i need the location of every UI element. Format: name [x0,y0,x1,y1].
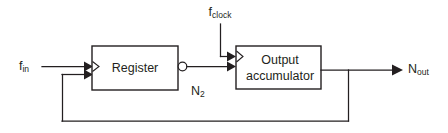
label-n2-sub: 2 [200,89,205,99]
wire-register-to-accumulator [178,62,236,72]
arrowhead-nout [392,65,403,76]
arrowhead-accumulator-data-input [227,62,236,72]
label-n-out-base: N [408,62,417,76]
label-f-clock: fclock [209,5,233,20]
output-accumulator-label-line2: accumulator [246,69,314,83]
label-f-clock-sub: clock [212,10,232,20]
label-n2: N2 [191,84,205,99]
wire-feedback-to-register [62,70,93,80]
output-accumulator-label-line1: Output [261,53,299,67]
wire-fclock-to-accumulator [221,24,237,62]
block-register: Register [92,46,178,90]
register-output-inversion-bubble [178,62,187,71]
label-n-out-sub: out [417,67,429,77]
wire-accumulator-to-nout [321,65,403,76]
arrowhead-accumulator-clock-input [227,52,236,62]
label-n-out: Nout [408,62,429,77]
diagram-canvas: Register Output accumulator fin fc [0,0,448,133]
wire-fin-to-register [42,62,93,72]
register-label: Register [112,61,159,75]
label-f-in: fin [19,59,29,74]
block-diagram: Register Output accumulator fin fc [0,0,448,133]
label-n2-base: N [191,84,200,98]
block-output-accumulator: Output accumulator [236,46,321,89]
label-f-in-sub: in [22,64,29,74]
